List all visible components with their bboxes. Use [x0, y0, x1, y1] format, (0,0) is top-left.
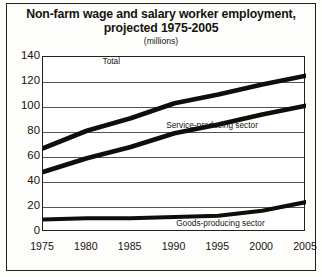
data-lines [43, 57, 306, 232]
series-label-service-producing: Service-producing sector [166, 121, 258, 130]
y-tick-40: 40 [6, 175, 40, 186]
y-tick-100: 100 [6, 100, 40, 111]
x-tick-2005: 2005 [293, 240, 317, 252]
x-tick-1975: 1975 [30, 240, 54, 252]
x-tick-2000: 2000 [249, 240, 273, 252]
y-tick-120: 120 [6, 75, 40, 86]
chart-subtitle: (millions) [12, 36, 310, 47]
chart-figure: Non-farm wage and salary worker employme… [0, 0, 322, 277]
x-tick-1980: 1980 [74, 240, 98, 252]
chart-title-line-2: projected 1975-2005 [12, 22, 310, 36]
chart-title-block: Non-farm wage and salary worker employme… [12, 8, 310, 47]
chart-title-line-1: Non-farm wage and salary worker employme… [12, 8, 310, 22]
x-tick-1990: 1990 [162, 240, 186, 252]
series-label-goods-producing: Goods-producing sector [176, 219, 265, 228]
x-tick-1995: 1995 [206, 240, 230, 252]
series-label-total: Total [103, 57, 121, 66]
y-tick-60: 60 [6, 150, 40, 161]
y-tick-80: 80 [6, 125, 40, 136]
y-axis-tick-labels: 020406080100120140 [6, 50, 40, 238]
x-tick-1985: 1985 [118, 240, 142, 252]
series-line-service-producing [43, 106, 306, 172]
y-tick-140: 140 [6, 50, 40, 61]
series-line-goods-producing [43, 202, 306, 220]
plot-area: Total Service-producing sector Goods-pro… [42, 56, 305, 231]
y-tick-20: 20 [6, 200, 40, 211]
x-axis-tick-labels: 1975198019851990199520002005 [42, 240, 305, 258]
y-tick-0: 0 [6, 225, 40, 236]
